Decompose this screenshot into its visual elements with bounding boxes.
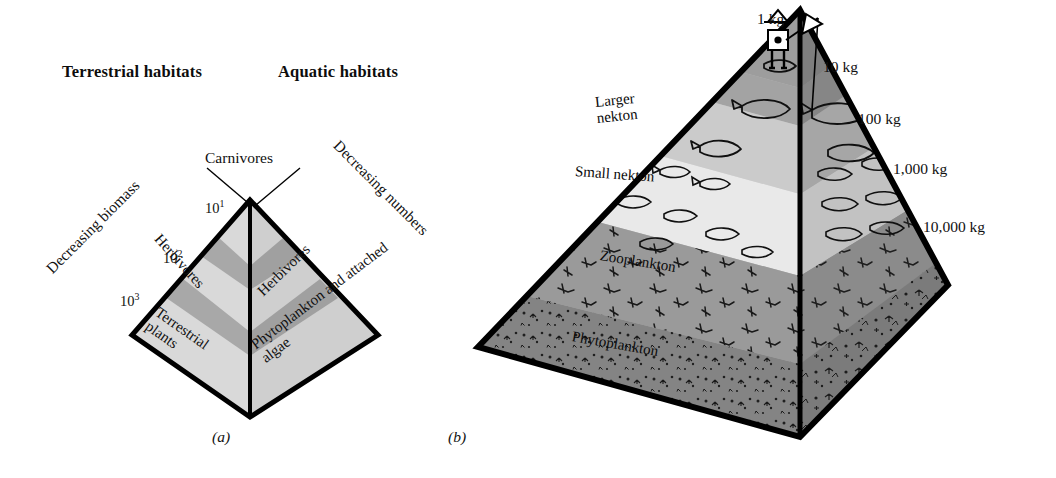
scale-tick-base-1: 10 [205,200,220,216]
heading-terrestrial-habitats: Terrestrial habitats [62,62,202,82]
mass-label-10000kg: 10,000 kg [923,218,985,236]
caption-a: (a) [212,428,230,446]
label-b-larger-nekton: Largernekton [594,91,638,127]
mass-label-100kg: 100 kg [858,110,901,128]
heading-aquatic-habitats: Aquatic habitats [278,62,398,82]
mass-label-1kg: 1 kg [757,10,784,28]
mass-label-1000kg: 1,000 kg [893,160,947,178]
scale-tick-base-3: 10 [120,293,135,309]
mass-label-10kg: 10 kg [823,58,858,76]
carnivores-leader-left [207,168,247,202]
label-carnivores: Carnivores [205,149,273,167]
figure-root: Terrestrial habitats Aquatic habitats De… [0,0,1056,478]
pyramid-b [478,10,948,437]
scale-tick-10-3: 103 [120,291,139,310]
carnivores-leader-right [256,168,300,205]
scale-tick-10-1: 101 [205,198,224,217]
caption-b: (b) [448,428,466,446]
scale-tick-exp-1: 1 [220,198,225,209]
label-b-nekton: nekton [596,105,638,125]
scale-tick-exp-3: 3 [135,291,140,302]
